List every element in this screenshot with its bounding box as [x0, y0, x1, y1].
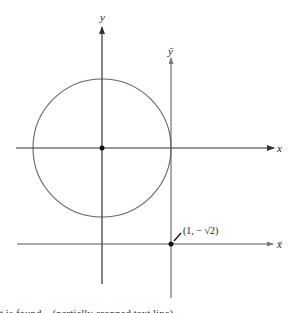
x-axis-label: x	[276, 142, 282, 154]
cropped-caption-text: t is found... (partially cropped text li…	[0, 302, 297, 313]
x-bar-axis-label: x̄	[276, 238, 282, 250]
point-label: (1, − √2)	[183, 225, 218, 237]
diagram-canvas: y ȳ x x̄ (1, − √2)	[0, 0, 297, 313]
point-leader-arrow	[174, 233, 181, 241]
y-axis-label: y	[99, 11, 105, 23]
y-bar-axis-label: ȳ	[167, 45, 174, 57]
origin-point	[100, 146, 105, 151]
translated-origin-point	[169, 242, 174, 247]
